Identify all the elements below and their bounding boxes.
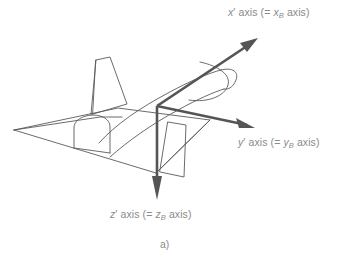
x-axis-label-suffix: axis) [284, 6, 310, 18]
z-axis-label: z′ axis (= zB axis) [110, 208, 192, 222]
delta-wing-outline [14, 108, 210, 173]
y-axis-arrowhead [236, 118, 255, 128]
vertical-tail-fin [93, 57, 127, 114]
z-axis-label-mid: axis (= [117, 208, 155, 220]
axis-system-figure: x′ axis (= xB axis) y′ axis (= yB axis) … [0, 0, 345, 266]
x-axis-label: x′ axis (= xB axis) [228, 6, 310, 20]
z-axis-label-suffix: axis) [166, 208, 192, 220]
y-axis-label: y′ axis (= yB axis) [238, 136, 320, 150]
z-axis-arrowhead [152, 176, 162, 200]
aircraft-axis-diagram [0, 0, 345, 266]
y-axis-label-suffix: axis) [294, 136, 320, 148]
ventral-fin [160, 122, 186, 177]
figure-caption: a) [160, 238, 169, 250]
x-axis-label-mid: axis (= [235, 6, 273, 18]
y-axis-label-mid: axis (= [245, 136, 283, 148]
engine-nacelle-arch [74, 115, 110, 153]
engine-nacelle-base-line [74, 148, 110, 153]
